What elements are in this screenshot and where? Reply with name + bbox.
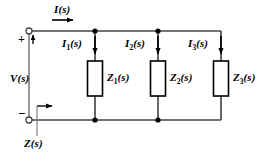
label-total-current: I(s) — [54, 4, 70, 15]
node-dot-top-1 — [92, 28, 97, 33]
polarity-plus-sign: + — [18, 33, 25, 45]
node-dot-bottom-2 — [155, 117, 160, 122]
impedance-block-2 — [151, 61, 166, 96]
label-equivalent-impedance: Z(s) — [24, 138, 43, 149]
label-impedance-2: Z2(s) — [170, 72, 193, 83]
label-source-voltage: V(s) — [10, 73, 29, 84]
terminal-top-icon — [26, 28, 32, 34]
polarity-minus-sign: − — [18, 107, 25, 120]
label-impedance-3: Z3(s) — [233, 72, 256, 83]
node-dot-bottom-1 — [92, 117, 97, 122]
label-branch-current-3: I3(s) — [188, 38, 208, 49]
label-impedance-1: Z1(s) — [107, 72, 130, 83]
circuit-diagram: I(s) I1(s) I2(s) I3(s) V(s) Z1(s) Z2(s) … — [0, 0, 267, 156]
impedance-block-3 — [214, 61, 229, 96]
node-dot-top-2 — [155, 28, 160, 33]
circuit-schematic-canvas — [0, 0, 267, 156]
label-branch-current-1: I1(s) — [62, 38, 82, 49]
terminal-bottom-icon — [26, 117, 32, 123]
label-branch-current-2: I2(s) — [125, 38, 145, 49]
impedance-block-1 — [88, 61, 103, 96]
